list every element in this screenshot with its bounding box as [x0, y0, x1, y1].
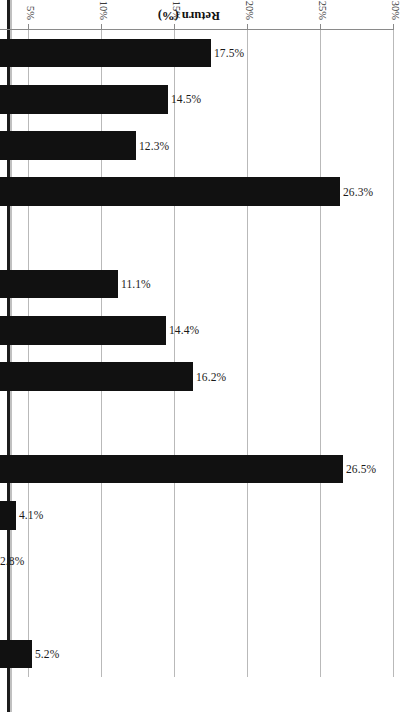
bar-1996	[0, 316, 166, 345]
bar-label-2000: 4.1%	[19, 509, 43, 521]
bar-YTD-2003	[0, 640, 32, 669]
bar-1995	[0, 270, 118, 299]
bar-label-2001: 2.8%	[0, 555, 24, 567]
bar-2000	[0, 501, 16, 530]
bar-label-1999: 26.5%	[346, 463, 376, 475]
bar-label-YTD-2003: 5.2%	[35, 648, 59, 660]
bar-label-1990: 17.5%	[215, 47, 245, 59]
axis-title: Return (%)	[188, 0, 189, 30]
gridline-10pct	[101, 30, 102, 677]
bar-chart-figure: 17.5%14.5%12.3%26.3%-3.5%11.1%14.4%16.2%…	[0, 0, 419, 724]
value-tick-label: 25%	[317, 1, 328, 20]
bar-label-1996: 14.4%	[169, 324, 199, 336]
bar-1992	[0, 131, 136, 160]
bar-label-1992: 12.3%	[139, 140, 169, 152]
value-tick-label-holder: 15%	[174, 24, 175, 25]
value-tick-label: 10%	[98, 1, 109, 20]
gridline-30pct	[393, 30, 394, 677]
rotated-page-wrapper: 17.5%14.5%12.3%26.3%-3.5%11.1%14.4%16.2%…	[0, 0, 419, 724]
value-tick-label-holder: 10%	[101, 24, 102, 25]
value-tick-label-holder: 25%	[320, 24, 321, 25]
value-axis-line	[0, 29, 394, 30]
gridline-25pct	[320, 30, 321, 677]
bar-label-1993: 26.3%	[343, 186, 373, 198]
bar-1993	[0, 177, 340, 206]
bar-1991	[0, 85, 168, 114]
bar-1997	[0, 362, 193, 391]
value-tick-label: 20%	[244, 1, 255, 20]
value-tick-label: 30%	[390, 1, 401, 20]
plot-area: 17.5%14.5%12.3%26.3%-3.5%11.1%14.4%16.2%…	[0, 30, 394, 677]
bar-1990	[0, 39, 212, 68]
bar-1999	[0, 455, 343, 484]
value-tick-label: 5%	[25, 6, 36, 20]
gridline-20pct	[247, 30, 248, 677]
value-tick-label-holder: 20%	[247, 24, 248, 25]
gridline-15pct	[174, 30, 175, 677]
gridline-5pct	[28, 30, 29, 677]
bar-label-1991: 14.5%	[171, 93, 201, 105]
value-tick-label-holder: 30%	[393, 24, 394, 25]
bar-label-1997: 16.2%	[196, 371, 226, 383]
bar-label-1995: 11.1%	[121, 278, 151, 290]
axis-title-text: Return (%)	[158, 8, 220, 23]
value-tick-label-holder: 5%	[28, 24, 29, 25]
